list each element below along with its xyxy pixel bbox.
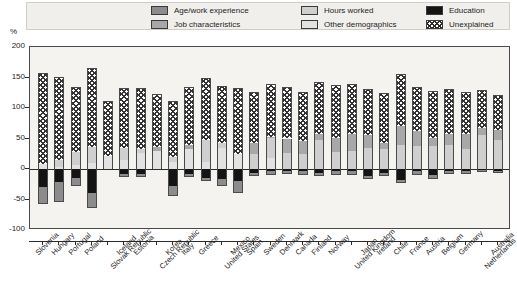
bar-top-edge — [38, 73, 48, 74]
bar-segment-other — [233, 154, 243, 169]
bar-segment-hours — [168, 157, 178, 162]
bar-poland[interactable] — [87, 47, 97, 230]
bar-segment-job — [379, 143, 389, 149]
bar-segment-unexplained — [363, 89, 373, 135]
bar-slovenia[interactable] — [38, 47, 48, 230]
bar-australia[interactable] — [493, 47, 503, 230]
bar-segment-age — [54, 182, 64, 200]
bar-bottom-edge — [249, 175, 259, 176]
x-axis-tick-mark — [481, 241, 482, 245]
x-axis-tick-mark — [221, 241, 222, 245]
bar-hungary[interactable] — [54, 47, 64, 230]
bar-segment-unexplained — [168, 101, 178, 157]
x-axis-label: Greece — [196, 233, 220, 257]
bar-segment-unexplained — [38, 73, 48, 165]
y-axis-tick-label: 0 — [1, 163, 25, 172]
bar-canada[interactable] — [298, 47, 308, 230]
bar-segment-job — [314, 134, 324, 140]
bar-italy[interactable] — [184, 47, 194, 230]
bar-korea[interactable] — [168, 47, 178, 230]
legend-item-job[interactable]: Job characteristics — [151, 17, 240, 31]
bar-top-edge — [54, 77, 64, 78]
bar-segment-hours — [314, 140, 324, 169]
bar-belgium[interactable] — [444, 47, 454, 230]
legend-item-unexplained[interactable]: Unexplained — [426, 17, 493, 31]
bar-denmark[interactable] — [282, 47, 292, 230]
y-axis: 200150100500-50-100 — [0, 0, 25, 297]
bar-sweden[interactable] — [266, 47, 276, 230]
bar-japan[interactable] — [363, 47, 373, 230]
bar-mexico[interactable] — [233, 47, 243, 230]
bar-segment-hours — [412, 146, 422, 169]
bar-top-edge — [136, 88, 146, 89]
bar-bottom-edge — [136, 176, 146, 177]
bar-germany[interactable] — [461, 47, 471, 230]
bar-bottom-edge — [119, 176, 129, 177]
bar-austria[interactable] — [428, 47, 438, 230]
bar-top-edge — [201, 78, 211, 79]
bar-top-edge — [461, 92, 471, 93]
legend-item-other[interactable]: Other demographics — [301, 17, 396, 31]
bar-top-edge — [363, 89, 373, 90]
y-axis-tick-mark — [25, 138, 29, 139]
bar-chile[interactable] — [396, 47, 406, 230]
bar-bottom-edge — [233, 192, 243, 193]
bar-bottom-edge — [201, 180, 211, 181]
legend-swatch-education-icon — [426, 6, 443, 15]
bar-bottom-edge — [71, 185, 81, 186]
bar-norway[interactable] — [331, 47, 341, 230]
bar-greece[interactable] — [201, 47, 211, 230]
bar-france[interactable] — [412, 47, 422, 230]
legend-item-education[interactable]: Education — [426, 3, 485, 17]
bar-segment-hours — [54, 160, 64, 166]
bar-segment-hours — [396, 145, 406, 169]
bar-finland[interactable] — [314, 47, 324, 230]
bar-top-edge — [217, 86, 227, 87]
bar-portugal[interactable] — [71, 47, 81, 230]
bar-spain[interactable] — [249, 47, 259, 230]
bar-estonia[interactable] — [136, 47, 146, 230]
bar-bottom-edge — [396, 182, 406, 183]
bar-segment-hours — [493, 140, 503, 169]
legend-item-hours[interactable]: Hours worked — [301, 3, 373, 17]
bar-top-edge — [412, 87, 422, 88]
bar-top-edge — [233, 88, 243, 89]
y-axis-tick-label: -100 — [1, 224, 25, 233]
bar-segment-age — [87, 193, 97, 206]
legend-swatch-unexplained-icon — [426, 20, 443, 29]
bar-top-edge — [396, 74, 406, 75]
bar-netherlands[interactable] — [477, 47, 487, 230]
bar-ireland[interactable] — [379, 47, 389, 230]
bar-segment-job — [428, 138, 438, 146]
bar-segment-hours — [331, 152, 341, 169]
bar-iceland[interactable] — [119, 47, 129, 230]
bar-segment-education — [71, 169, 81, 178]
bar-top-edge — [168, 101, 178, 102]
bar-top-edge — [477, 90, 487, 91]
bar-segment-unexplained — [379, 93, 389, 143]
bar-czech-republic[interactable] — [152, 47, 162, 230]
bar-bottom-edge — [461, 173, 471, 174]
bar-segment-other — [119, 160, 129, 169]
bar-segment-hours — [477, 135, 487, 169]
bar-top-edge — [493, 95, 503, 96]
bar-segment-hours — [136, 149, 146, 153]
bar-segment-job — [266, 137, 276, 138]
bar-segment-job — [331, 138, 341, 152]
legend-label: Job characteristics — [174, 20, 240, 29]
y-axis-tick-label: 200 — [1, 41, 25, 50]
bar-segment-hours — [119, 148, 129, 160]
legend-item-age[interactable]: Age/work experience — [151, 3, 249, 17]
x-axis-tick-mark — [351, 241, 352, 245]
bar-bottom-edge — [363, 178, 373, 179]
bar-segment-job — [363, 135, 373, 148]
bar-segment-unexplained — [119, 88, 129, 148]
legend-swatch-age-icon — [151, 6, 168, 15]
bar-segment-education — [217, 169, 227, 179]
bar-united-states[interactable] — [217, 47, 227, 230]
bar-segment-other — [201, 162, 211, 169]
bar-segment-unexplained — [282, 87, 292, 138]
y-axis-tick-mark — [25, 107, 29, 108]
bar-united-kingdom[interactable] — [347, 47, 357, 230]
bar-slovak-republic[interactable] — [103, 47, 113, 230]
